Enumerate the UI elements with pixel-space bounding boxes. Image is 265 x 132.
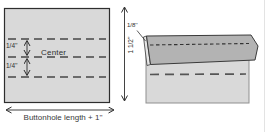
- buttonhole-pattern-diagram: 1/4'' Center 1/4'' 1 1/2'' 1/8'' Buttonh…: [0, 0, 264, 132]
- quarter-bottom-label: 1/4'': [6, 62, 18, 69]
- center-label: Center: [41, 49, 66, 58]
- fold-leader-line: [137, 31, 146, 42]
- fold-label: 1/8'': [127, 22, 138, 29]
- fold-flap: [147, 35, 259, 65]
- length-label: Buttonhole length + 1'': [8, 114, 118, 123]
- height-label: 1 1/2'': [127, 32, 135, 59]
- quarter-top-label: 1/4'': [6, 42, 18, 49]
